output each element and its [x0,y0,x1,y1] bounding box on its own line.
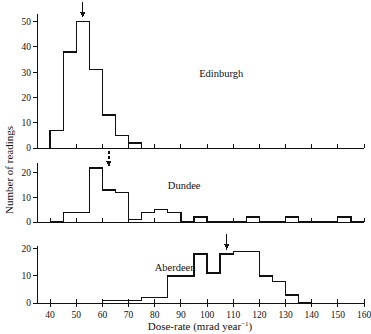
x-tick-label: 90 [176,310,186,320]
y-tick-label: 10 [22,193,32,203]
mean-arrow-head-dundee [106,161,112,168]
x-axis-label: Dose-rate (mrad year−1) [148,320,253,333]
x-tick-label: 130 [278,310,293,320]
panel-label-dundee: Dundee [168,180,201,191]
y-tick-label: 10 [22,118,32,128]
x-tick-label: 50 [71,310,81,320]
x-tick-label: 80 [150,310,160,320]
y-tick-label: 20 [22,244,32,254]
mean-arrow-head-edinburgh [80,12,86,19]
figure-container: Number of readings 01020304050Edinburgh0… [0,0,371,334]
y-axis-label: Number of readings [3,126,15,214]
x-tick-label: 110 [226,310,240,320]
y-tick-label: 40 [22,42,32,52]
histogram-figure: Number of readings 01020304050Edinburgh0… [0,0,371,334]
panel-label-edinburgh: Edinburgh [199,68,244,79]
histogram-outline-edinburgh [50,22,142,148]
panel-dundee: 01020Dundee [22,151,365,227]
y-tick-label: 10 [22,271,32,281]
histogram-outline-dundee [50,168,364,222]
y-tick-label: 0 [26,298,31,308]
x-tick-label: 120 [252,310,267,320]
y-tick-label: 50 [22,17,32,27]
y-tick-label: 30 [22,68,32,78]
x-tick-label: 150 [331,310,346,320]
panel-edinburgh: 01020304050Edinburgh [22,2,365,153]
panels-group: 01020304050Edinburgh01020Dundee01020Aber… [22,2,365,308]
x-tick-label: 40 [45,310,55,320]
y-tick-label: 0 [26,143,31,153]
x-tick-label: 140 [305,310,320,320]
x-tick-label: 60 [98,310,108,320]
panel-label-aberdeen: Aberdeen [155,262,197,273]
y-tick-label: 20 [22,93,32,103]
x-tick-label: 70 [124,310,134,320]
x-tick-label: 160 [357,310,371,320]
x-tick-label: 100 [200,310,215,320]
mean-arrow-head-aberdeen [224,244,230,251]
y-axis-label-group: Number of readings [3,126,15,214]
x-axis-group: 405060708090100110120130140150160 [45,303,371,320]
y-tick-label: 0 [26,217,31,227]
y-tick-label: 20 [22,168,32,178]
histogram-outline-aberdeen [102,251,311,303]
panel-aberdeen: 01020Aberdeen [22,234,365,308]
